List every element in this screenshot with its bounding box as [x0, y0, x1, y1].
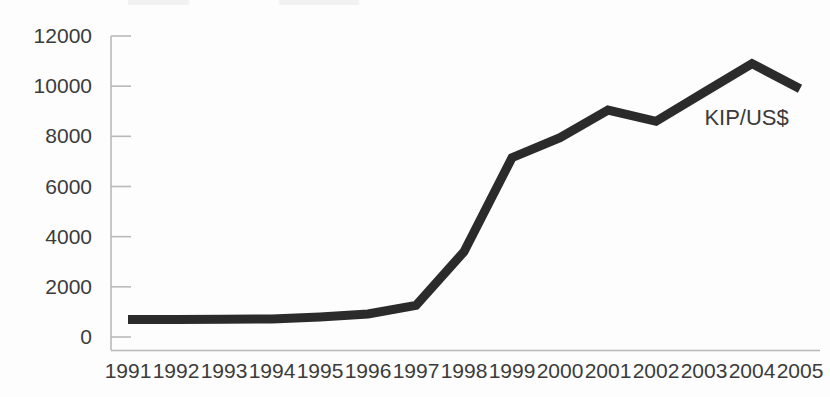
y-axis-tick-label: 2000	[0, 276, 92, 297]
chart-figure: 020004000600080001000012000 199119921993…	[0, 0, 830, 397]
y-axis-tick-label: 8000	[0, 125, 92, 146]
x-axis-tick-labels: 1991199219931994199519961997199819992000…	[0, 359, 830, 393]
x-axis-tick-label: 1993	[198, 359, 250, 382]
x-axis-tick-label: 1994	[246, 359, 298, 382]
x-axis-tick-label: 2003	[678, 359, 730, 382]
x-axis-tick-label: 1995	[294, 359, 346, 382]
x-axis-tick-label: 2001	[582, 359, 634, 382]
x-axis-tick-label: 2005	[774, 359, 826, 382]
y-axis-tick-label: 12000	[0, 25, 92, 46]
y-axis-ticks	[111, 36, 131, 337]
x-axis-tick-label: 1997	[390, 359, 442, 382]
y-axis-tick-labels: 020004000600080001000012000	[0, 0, 92, 397]
x-axis-tick-label: 1998	[438, 359, 490, 382]
x-axis-tick-label: 1992	[150, 359, 202, 382]
x-axis-tick-label: 1991	[102, 359, 154, 382]
line-chart-plot	[0, 0, 830, 397]
data-series-group	[128, 64, 800, 320]
y-axis-tick-label: 4000	[0, 226, 92, 247]
y-axis-tick-label: 6000	[0, 176, 92, 197]
y-axis-tick-label: 0	[0, 326, 92, 347]
x-axis-tick-label: 1999	[486, 359, 538, 382]
series-line-kip-usd	[128, 64, 800, 320]
x-axis-tick-label: 2004	[726, 359, 778, 382]
series-inline-label: KIP/US$	[704, 105, 788, 131]
x-axis-tick-label: 2000	[534, 359, 586, 382]
x-axis-tick-label: 1996	[342, 359, 394, 382]
y-axis-tick-label: 10000	[0, 75, 92, 96]
x-axis-tick-label: 2002	[630, 359, 682, 382]
